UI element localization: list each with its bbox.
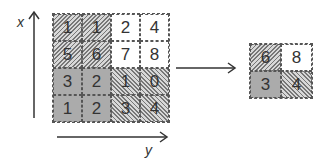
input-grid: 1124567832101234 [52, 13, 170, 123]
grid-cell: 8 [140, 41, 169, 68]
grid-cell: 3 [111, 95, 140, 122]
transform-arrow-icon [175, 61, 237, 75]
grid-cell: 2 [82, 68, 111, 95]
grid-cell: 4 [140, 95, 169, 122]
grid-cell: 1 [82, 14, 111, 41]
grid-cell: 4 [281, 71, 312, 98]
grid-cell: 1 [53, 95, 82, 122]
grid-cell: 6 [82, 41, 111, 68]
x-axis-arrow-icon [28, 10, 40, 120]
grid-cell: 2 [111, 14, 140, 41]
grid-cell: 1 [111, 68, 140, 95]
grid-cell: 5 [53, 41, 82, 68]
y-axis-arrow-icon [55, 130, 170, 144]
grid-cell: 2 [82, 95, 111, 122]
grid-cell: 4 [140, 14, 169, 41]
output-grid: 6834 [249, 43, 313, 99]
grid-cell: 3 [250, 71, 281, 98]
x-axis-label: x [17, 14, 24, 30]
grid-cell: 6 [250, 44, 281, 71]
y-axis-label: y [145, 142, 152, 158]
grid-cell: 1 [53, 14, 82, 41]
grid-cell: 7 [111, 41, 140, 68]
grid-cell: 8 [281, 44, 312, 71]
grid-cell: 0 [140, 68, 169, 95]
grid-cell: 3 [53, 68, 82, 95]
